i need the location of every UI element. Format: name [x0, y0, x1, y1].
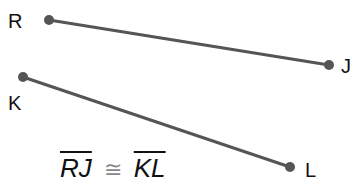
point-l	[285, 162, 295, 172]
point-j	[324, 60, 334, 70]
label-j: J	[341, 55, 351, 77]
label-k: K	[8, 92, 22, 114]
segment-rj-name: RJ	[60, 153, 92, 184]
point-r	[44, 15, 54, 25]
segment-rj	[49, 20, 329, 65]
label-l: L	[305, 159, 316, 181]
congruent-segments-diagram: R J K L RJ ≅ KL	[0, 0, 355, 189]
segment-kl-name: KL	[134, 153, 166, 184]
point-k	[18, 72, 28, 82]
congruent-symbol: ≅	[104, 157, 122, 183]
diagram-canvas: R J K L	[0, 0, 355, 189]
label-r: R	[8, 10, 22, 32]
congruence-statement: RJ ≅ KL	[60, 153, 166, 184]
